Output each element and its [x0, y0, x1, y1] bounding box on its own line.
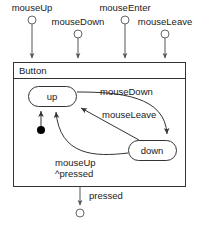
state-up[interactable]: up	[29, 87, 77, 107]
state-down[interactable]: down	[129, 141, 177, 161]
port-circle-mouseup[interactable]	[28, 16, 36, 24]
port-circle-mouseenter[interactable]	[121, 16, 129, 24]
transition-mouseup: mouseUp ^pressed	[55, 112, 128, 179]
transition-label-mouseleave: mouseLeave	[102, 109, 156, 120]
port-mouseleave[interactable]: mouseLeave	[138, 16, 192, 58]
transition-label-mousedown: mouseDown	[100, 86, 153, 97]
port-circle-mouseleave[interactable]	[161, 30, 169, 38]
initial-pseudostate	[37, 111, 45, 134]
transition-label-pressed-action: ^pressed	[55, 168, 93, 179]
transition-mouseleave: mouseLeave	[81, 108, 156, 140]
initial-state-dot	[37, 126, 45, 134]
port-mousedown[interactable]: mouseDown	[52, 16, 105, 58]
region-title-button: Button	[19, 65, 46, 76]
port-circle-mousedown[interactable]	[74, 30, 82, 38]
port-label-mouseleave: mouseLeave	[138, 16, 192, 27]
port-label-mousedown: mouseDown	[52, 16, 105, 27]
port-pressed[interactable]: pressed	[76, 187, 123, 217]
state-label-up: up	[47, 91, 58, 102]
region-box-button	[14, 63, 186, 187]
port-label-mouseup: mouseUp	[12, 2, 53, 13]
diagram-canvas: mouseUp mouseDown mouseEnter mouseLeave …	[0, 0, 209, 225]
port-mouseup[interactable]: mouseUp	[12, 2, 53, 58]
port-mouseenter[interactable]: mouseEnter	[99, 2, 150, 58]
state-label-down: down	[141, 145, 164, 156]
statechart-diagram: mouseUp mouseDown mouseEnter mouseLeave …	[0, 0, 209, 225]
port-circle-pressed[interactable]	[76, 209, 84, 217]
transition-label-mouseup: mouseUp	[55, 157, 96, 168]
port-label-mouseenter: mouseEnter	[99, 2, 150, 13]
port-label-pressed: pressed	[89, 190, 123, 201]
